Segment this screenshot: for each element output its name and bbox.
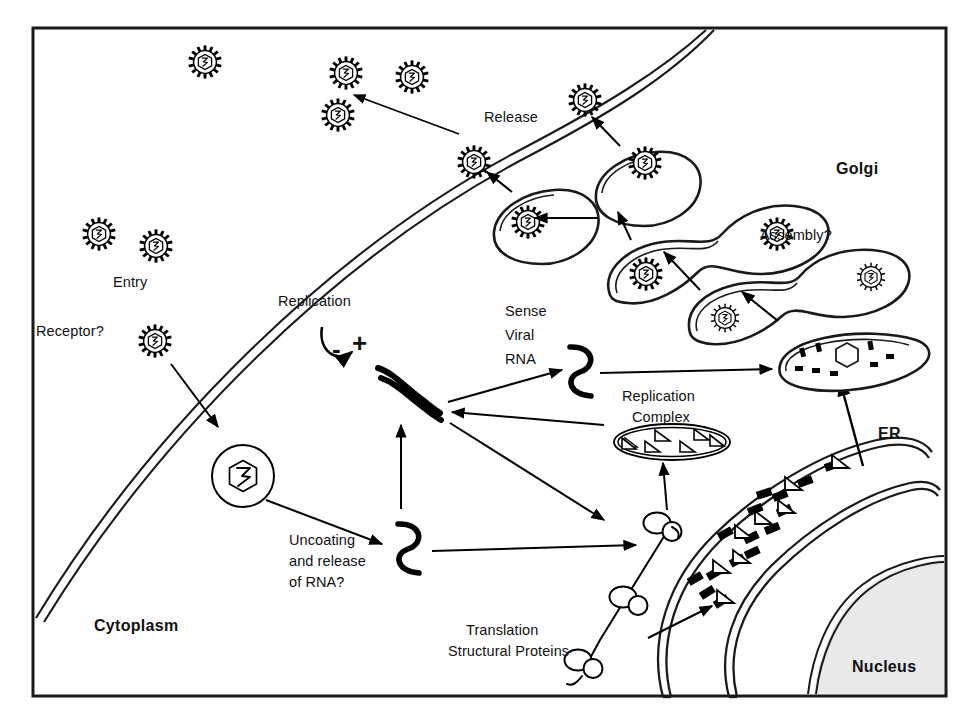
label-er: ER (878, 425, 901, 443)
label-uncoating-line3: of RNA? (289, 573, 345, 591)
label-replication-complex-line1: Replication (622, 387, 695, 405)
label-plus-strand: + (352, 330, 367, 356)
label-golgi: Golgi (836, 160, 878, 178)
label-cytoplasm: Cytoplasm (94, 617, 179, 635)
label-release: Release (484, 108, 538, 126)
label-replication: Replication (278, 292, 351, 310)
label-uncoating-line1: Uncoating (289, 531, 355, 549)
replication-complex (614, 424, 730, 460)
label-uncoating-line2: and release (289, 552, 366, 570)
label-sense-viral-rna-line3: RNA (505, 350, 536, 368)
label-sense-viral-rna-line2: Viral (505, 326, 534, 344)
label-nucleus: Nucleus (852, 658, 916, 676)
label-sense-viral-rna-line1: Sense (505, 302, 547, 320)
label-receptor: Receptor? (36, 322, 104, 340)
label-minus-strand: - (332, 336, 341, 362)
label-assembly: Assembly? (760, 226, 832, 244)
figure-canvas: Entry Receptor? Replication - + Sense Vi… (0, 0, 980, 727)
label-entry: Entry (113, 273, 147, 291)
endosome (212, 445, 274, 507)
label-replication-complex-line2: Complex (632, 408, 690, 426)
label-translation-line2: Structural Proteins (448, 642, 569, 660)
label-translation-line1: Translation (466, 621, 538, 639)
